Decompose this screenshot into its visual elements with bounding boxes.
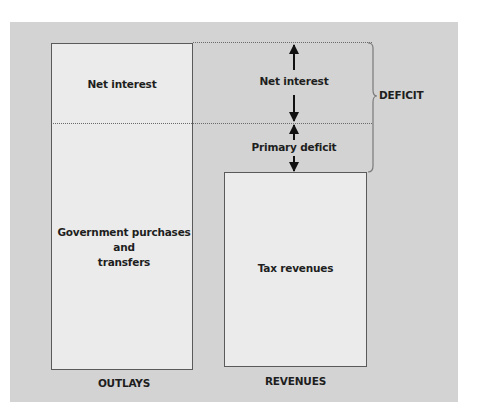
gap-net-interest-label: Net interest [254, 75, 334, 87]
arrows-and-brace [0, 0, 478, 418]
primary-deficit-label: Primary deficit [244, 141, 344, 153]
deficit-brace-label: DEFICIT [379, 89, 423, 101]
deficit-brace-icon [368, 43, 377, 172]
